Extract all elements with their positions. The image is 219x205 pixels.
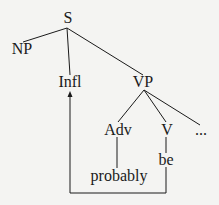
edge-s-infl: [67, 28, 70, 75]
node-np: NP: [12, 41, 32, 57]
arrowhead-icon: [68, 91, 73, 97]
node-probably: probably: [91, 168, 148, 184]
node-ellipsis: ...: [195, 122, 207, 138]
node-v: V: [161, 122, 173, 138]
edge-vp-v: [144, 90, 166, 122]
node-be: be: [158, 152, 173, 168]
node-s: S: [64, 10, 73, 26]
edge-s-vp: [67, 28, 143, 75]
edge-vp-adv: [118, 90, 144, 122]
node-infl: Infl: [58, 74, 81, 90]
node-adv: Adv: [104, 122, 132, 138]
node-vp: VP: [133, 74, 153, 90]
edge-vp-ellipsis: [144, 90, 200, 125]
